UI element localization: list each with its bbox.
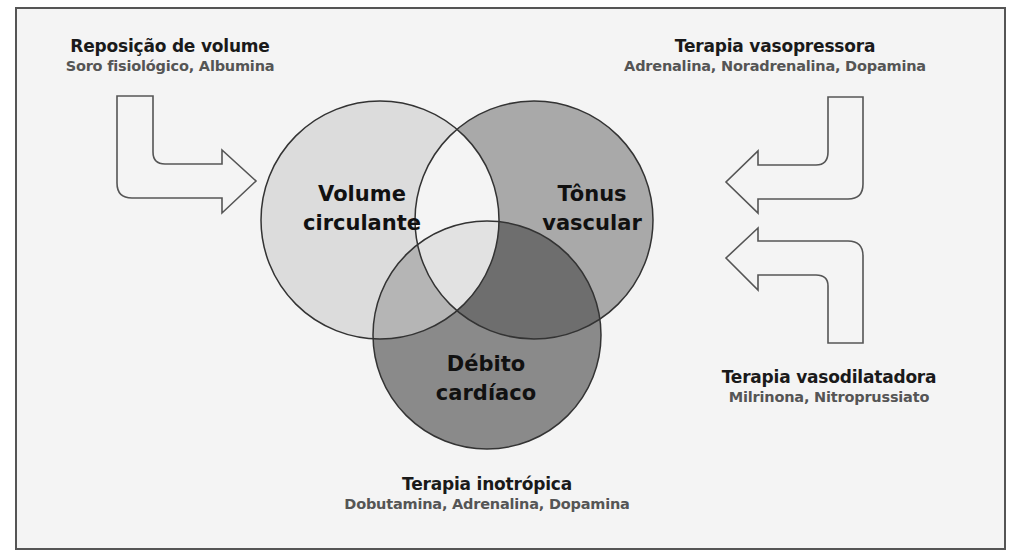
- arrow-volume-icon: [117, 96, 256, 213]
- therapy-title: Terapia vasopressora: [624, 36, 926, 57]
- arrow-vasodilator-icon: [726, 228, 863, 343]
- circle-label-line2: vascular: [542, 209, 641, 238]
- circle-label-line1: Débito: [436, 350, 536, 379]
- therapy-title: Terapia inotrópica: [344, 474, 629, 495]
- circle-label-line1: Volume: [303, 180, 421, 209]
- therapy-title: Terapia vasodilatadora: [722, 367, 937, 388]
- label-volume-circulante: Volume circulante: [303, 180, 421, 238]
- label-tonus-vascular: Tônus vascular: [542, 180, 641, 238]
- label-debito-cardiaco: Débito cardíaco: [436, 350, 536, 408]
- therapy-volume: Reposição de volume Soro fisiológico, Al…: [66, 36, 275, 76]
- therapy-drugs: Dobutamina, Adrenalina, Dopamina: [344, 495, 629, 514]
- circle-label-line2: circulante: [303, 209, 421, 238]
- therapy-title: Reposição de volume: [66, 36, 275, 57]
- therapy-drugs: Adrenalina, Noradrenalina, Dopamina: [624, 57, 926, 76]
- circle-label-line2: cardíaco: [436, 379, 536, 408]
- arrow-vasopressor-icon: [726, 97, 863, 213]
- therapy-inotropic: Terapia inotrópica Dobutamina, Adrenalin…: [344, 474, 629, 514]
- therapy-vasopressor: Terapia vasopressora Adrenalina, Noradre…: [624, 36, 926, 76]
- therapy-vasodilator: Terapia vasodilatadora Milrinona, Nitrop…: [722, 367, 937, 407]
- therapy-drugs: Milrinona, Nitroprussiato: [722, 388, 937, 407]
- circle-label-line1: Tônus: [542, 180, 641, 209]
- therapy-drugs: Soro fisiológico, Albumina: [66, 57, 275, 76]
